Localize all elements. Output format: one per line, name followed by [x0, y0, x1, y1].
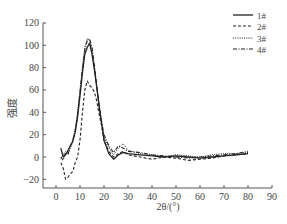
- x-tick-label: 70: [219, 191, 229, 202]
- y-tick-label: 0: [34, 152, 39, 163]
- legend: 1#2#3#4#: [233, 11, 267, 55]
- y-tick-label: 80: [29, 62, 39, 73]
- x-tick-label: 10: [75, 191, 85, 202]
- legend-label: 3#: [257, 34, 267, 44]
- legend-label: 4#: [257, 45, 267, 55]
- y-axis-title: 强度: [6, 98, 18, 118]
- series-line-2: [61, 81, 248, 179]
- plot-area: [61, 39, 248, 180]
- x-tick-label: 80: [243, 191, 253, 202]
- x-tick-label: 30: [123, 191, 133, 202]
- xrd-line-chart: −200204060801001200102030405060708090 1#…: [0, 0, 287, 224]
- y-tick-label: 120: [24, 17, 39, 28]
- axes: −200204060801001200102030405060708090: [23, 17, 277, 202]
- legend-label: 1#: [257, 11, 267, 21]
- y-tick-label: 100: [24, 40, 39, 51]
- x-tick-label: 90: [267, 191, 277, 202]
- series-line-3: [61, 39, 248, 160]
- y-tick-label: −20: [23, 174, 39, 185]
- x-tick-label: 0: [54, 191, 59, 202]
- y-tick-label: 40: [29, 107, 39, 118]
- y-tick-label: 60: [29, 84, 39, 95]
- y-tick-label: 20: [29, 129, 39, 140]
- series-line-4: [61, 39, 248, 161]
- x-tick-label: 20: [99, 191, 109, 202]
- series-line-1: [61, 43, 248, 159]
- x-axis-title: 2θ/(°): [156, 201, 179, 213]
- x-tick-label: 60: [195, 191, 205, 202]
- legend-label: 2#: [257, 22, 267, 32]
